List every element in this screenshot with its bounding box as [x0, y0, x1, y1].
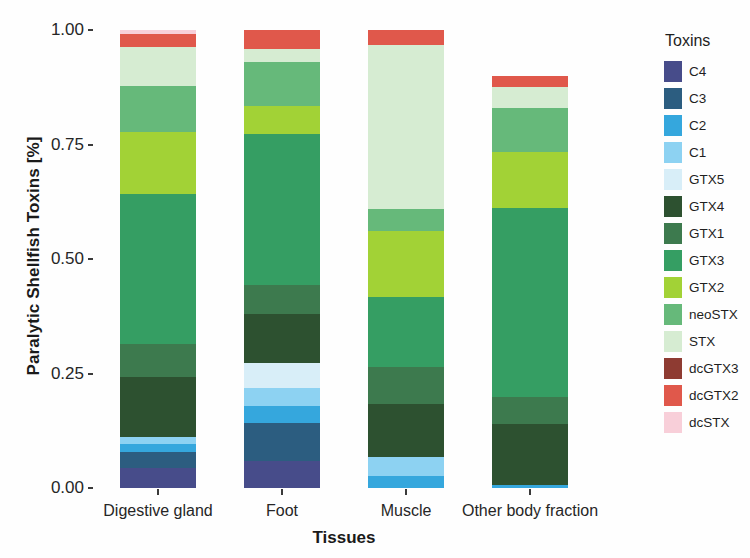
- stacked-bar-chart: Paralytic Shellfish Toxins [%] 0.000.250…: [0, 0, 750, 558]
- bar-segment[interactable]: [368, 45, 444, 209]
- bar-segment[interactable]: [244, 406, 320, 423]
- bar-segment[interactable]: [492, 87, 568, 108]
- bar-segment[interactable]: [244, 49, 320, 62]
- bar-segment[interactable]: [492, 108, 568, 152]
- bar-stack: [120, 30, 196, 488]
- bar-segment[interactable]: [368, 476, 444, 488]
- legend-item[interactable]: GTX4: [664, 193, 750, 220]
- bar-segment[interactable]: [244, 62, 320, 106]
- bar-segment[interactable]: [120, 34, 196, 48]
- legend-item[interactable]: C2: [664, 112, 750, 139]
- bar-segment[interactable]: [244, 285, 320, 314]
- bar-segment[interactable]: [120, 437, 196, 444]
- legend-swatch: [664, 277, 682, 298]
- y-tick-mark: [88, 258, 93, 260]
- x-tick-mark: [281, 489, 283, 495]
- legend-item[interactable]: C4: [664, 58, 750, 85]
- legend-item[interactable]: dcSTX: [664, 409, 750, 436]
- bar-segment[interactable]: [368, 209, 444, 231]
- bar-segment[interactable]: [492, 485, 568, 488]
- bar-segment[interactable]: [120, 444, 196, 452]
- bar-segment[interactable]: [120, 86, 196, 132]
- bar-segment[interactable]: [368, 297, 444, 367]
- legend-label: neoSTX: [689, 307, 738, 322]
- legend-item[interactable]: GTX5: [664, 166, 750, 193]
- legend-label: STX: [689, 334, 715, 349]
- legend-label: C4: [689, 64, 706, 79]
- x-tick-label: Other body fraction: [462, 502, 598, 520]
- legend-label: dcSTX: [689, 415, 730, 430]
- y-tick-label: 0.25: [28, 364, 84, 384]
- bar-segment[interactable]: [120, 47, 196, 86]
- y-tick-label: 0.75: [28, 135, 84, 155]
- bar-segment[interactable]: [244, 134, 320, 285]
- y-tick-mark: [88, 29, 93, 31]
- y-tick-label: 1.00: [28, 20, 84, 40]
- bar-stack: [244, 30, 320, 488]
- legend-label: GTX3: [689, 253, 724, 268]
- bar-segment[interactable]: [492, 208, 568, 397]
- bar-segment[interactable]: [368, 367, 444, 404]
- y-tick-label: 0.00: [28, 478, 84, 498]
- x-axis-title: Tissues: [96, 528, 592, 548]
- bar-group[interactable]: [244, 30, 320, 488]
- legend-item[interactable]: STX: [664, 328, 750, 355]
- legend-swatch: [664, 331, 682, 352]
- bar-segment[interactable]: [244, 363, 320, 388]
- bar-stack: [368, 30, 444, 488]
- bar-segment[interactable]: [244, 106, 320, 134]
- legend-label: C2: [689, 118, 706, 133]
- legend-swatch: [664, 142, 682, 163]
- bar-segment[interactable]: [368, 457, 444, 476]
- bar-segment[interactable]: [244, 314, 320, 363]
- legend-title: Toxins: [665, 32, 750, 50]
- bar-segment[interactable]: [368, 404, 444, 457]
- bar-segment[interactable]: [368, 231, 444, 297]
- y-tick-mark: [88, 487, 93, 489]
- bar-stack: [492, 30, 568, 488]
- bar-segment[interactable]: [120, 194, 196, 344]
- bar-segment[interactable]: [120, 30, 196, 34]
- legend-swatch: [664, 196, 682, 217]
- bar-group[interactable]: [120, 30, 196, 488]
- bar-segment[interactable]: [492, 424, 568, 485]
- legend-item[interactable]: C3: [664, 85, 750, 112]
- bar-segment[interactable]: [120, 468, 196, 488]
- bar-segment[interactable]: [244, 30, 320, 49]
- legend-swatch: [664, 304, 682, 325]
- bar-segment[interactable]: [244, 388, 320, 406]
- bar-segment[interactable]: [244, 461, 320, 488]
- bar-segment[interactable]: [120, 344, 196, 377]
- legend-label: GTX2: [689, 280, 724, 295]
- legend-item[interactable]: dcGTX3: [664, 355, 750, 382]
- legend-item[interactable]: GTX3: [664, 247, 750, 274]
- bar-group[interactable]: [368, 30, 444, 488]
- bar-segment[interactable]: [120, 452, 196, 468]
- x-tick-label: Muscle: [381, 502, 432, 520]
- bar-segment[interactable]: [492, 152, 568, 208]
- legend-swatch: [664, 223, 682, 244]
- x-tick-label: Digestive gland: [103, 502, 212, 520]
- legend-swatch: [664, 169, 682, 190]
- legend-item[interactable]: dcGTX2: [664, 382, 750, 409]
- bar-segment[interactable]: [120, 377, 196, 437]
- bar-segment[interactable]: [244, 423, 320, 461]
- y-tick-mark: [88, 144, 93, 146]
- legend-swatch: [664, 88, 682, 109]
- plot-area: [96, 30, 592, 488]
- legend: Toxins C4C3C2C1GTX5GTX4GTX1GTX3GTX2neoST…: [664, 32, 750, 436]
- legend-item[interactable]: neoSTX: [664, 301, 750, 328]
- bar-segment[interactable]: [492, 76, 568, 87]
- bar-group[interactable]: [492, 30, 568, 488]
- legend-item[interactable]: GTX1: [664, 220, 750, 247]
- x-tick-mark: [405, 489, 407, 495]
- bar-segment[interactable]: [368, 30, 444, 45]
- legend-item[interactable]: GTX2: [664, 274, 750, 301]
- bar-segment[interactable]: [120, 132, 196, 194]
- x-tick-mark: [529, 489, 531, 495]
- legend-label: GTX5: [689, 172, 724, 187]
- legend-item[interactable]: C1: [664, 139, 750, 166]
- legend-swatch: [664, 250, 682, 271]
- y-tick-mark: [88, 373, 93, 375]
- bar-segment[interactable]: [492, 397, 568, 424]
